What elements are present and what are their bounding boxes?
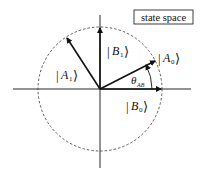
- svg-text:|: |: [126, 99, 129, 114]
- svg-text:⟩: ⟩: [143, 99, 148, 114]
- svg-text:|: |: [56, 68, 59, 83]
- state-space-diagram: | A 1 ⟩ | B 1 ⟩ | A 0 ⟩ | B 0 ⟩ θ AB sta…: [0, 0, 204, 179]
- svg-text:|: |: [107, 44, 110, 59]
- vector-A0: [100, 61, 155, 89]
- svg-text:B: B: [131, 99, 139, 113]
- label-theta-AB: θ AB: [131, 74, 145, 88]
- label-B1: | B 1 ⟩: [107, 44, 129, 59]
- svg-text:⟩: ⟩: [73, 68, 78, 83]
- svg-text:B: B: [112, 44, 120, 58]
- angle-arc: [146, 65, 152, 89]
- label-A0: | A 0 ⟩: [158, 51, 180, 66]
- label-B0: | B 0 ⟩: [126, 99, 148, 114]
- svg-text:AB: AB: [136, 82, 145, 88]
- title-box-label: state space: [141, 12, 187, 23]
- svg-text:|: |: [158, 51, 161, 66]
- svg-text:A: A: [162, 51, 171, 65]
- svg-text:⟩: ⟩: [124, 44, 129, 59]
- svg-text:A: A: [60, 68, 69, 82]
- label-A1: | A 1 ⟩: [56, 68, 78, 83]
- svg-text:⟩: ⟩: [175, 51, 180, 66]
